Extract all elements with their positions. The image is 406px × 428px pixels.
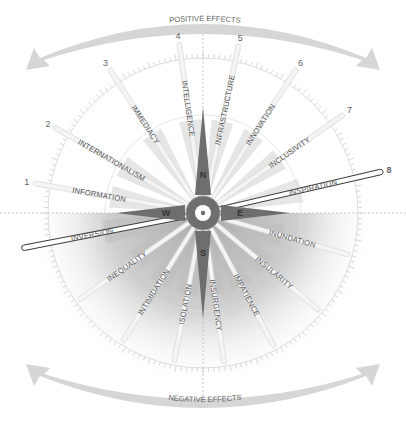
compass-diagram: POSITIVE EFFECTS NEGATIVE EFFECTS INFORM…: [0, 0, 406, 428]
spoke-number-6: 6: [298, 58, 303, 68]
direction-north: N: [200, 170, 207, 180]
spoke-number-2: 2: [45, 119, 50, 129]
positive-effects-arrow: POSITIVE EFFECTS: [26, 14, 380, 70]
spoke-number-3: 3: [103, 58, 108, 68]
spoke-number-4: 4: [176, 31, 181, 41]
direction-west: W: [162, 208, 171, 218]
spoke-number-8: 8: [387, 165, 392, 175]
compass-svg: POSITIVE EFFECTS NEGATIVE EFFECTS INFORM…: [0, 0, 406, 428]
direction-east: E: [237, 208, 243, 218]
compass-center-dot: [201, 211, 205, 215]
spoke-number-1: 1: [24, 177, 29, 187]
spoke-number-7: 7: [347, 105, 352, 115]
negative-effects-label: NEGATIVE EFFECTS: [168, 393, 242, 404]
spoke-label: INTERNATIONALISM: [77, 137, 147, 183]
spoke-number-5: 5: [238, 33, 243, 43]
positive-effects-label: POSITIVE EFFECTS: [169, 14, 241, 25]
direction-south: S: [200, 248, 206, 258]
